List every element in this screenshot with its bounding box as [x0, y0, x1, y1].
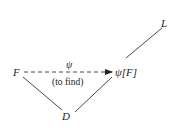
edge-psi-label: ψ — [66, 59, 73, 70]
edge-to-find-label: (to find) — [52, 77, 83, 88]
diagram-canvas: F D ψ[F] L ψ (to find) — [0, 0, 179, 132]
diagram-svg: F D ψ[F] L ψ (to find) — [0, 0, 179, 132]
node-l-label: L — [160, 17, 167, 29]
node-f-label: F — [12, 66, 20, 78]
node-d-label: D — [61, 110, 70, 122]
edge-psif-to-l — [126, 28, 162, 58]
node-psif-label: ψ[F] — [115, 66, 137, 78]
